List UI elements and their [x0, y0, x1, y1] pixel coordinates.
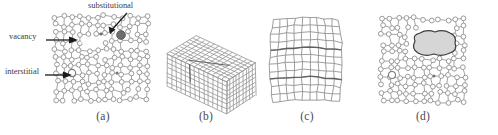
caption-panel-c: (c) [272, 110, 342, 122]
grid-c-svg [270, 18, 344, 104]
caption-panel-b: (b) [171, 110, 241, 122]
label-vacancy: vacancy [9, 32, 36, 41]
lattice-d-svg [381, 18, 465, 102]
panel-c-distorted-grid [270, 18, 344, 104]
block-b-svg [163, 14, 249, 104]
caption-panel-a: (a) [68, 110, 138, 122]
label-substitutional: substitutional [88, 1, 133, 10]
arrow-vacancy [46, 35, 80, 45]
arrow-substitutional [100, 11, 134, 37]
caption-panel-d: (d) [388, 110, 458, 122]
arrow-interstitial [45, 70, 75, 80]
panel-d-lattice-void [381, 18, 465, 102]
crystal-defects-figure: substitutional vacancy interstitial (a) … [0, 0, 498, 135]
label-interstitial: interstitial [5, 67, 39, 76]
vacancy-site [81, 36, 89, 44]
void-precipitate-blob [414, 31, 456, 56]
small-defect-dot-d [433, 75, 436, 78]
panel-b-3d-block [163, 14, 249, 104]
interstitial-atom-d [389, 72, 396, 79]
small-defect-dot-2 [116, 72, 119, 75]
